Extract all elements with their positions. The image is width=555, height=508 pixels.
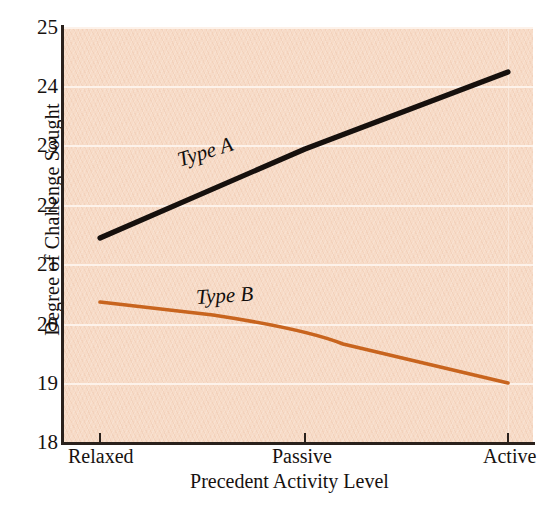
y-tick-label: 22 — [24, 195, 58, 216]
series-label-type-b: Type B — [195, 282, 254, 310]
chart-figure: Degree of Challenge Sought 25 24 23 22 2… — [0, 0, 555, 508]
y-tick-label: 18 — [24, 432, 58, 453]
series-line-type-b — [100, 302, 508, 383]
y-tick-label: 24 — [24, 76, 58, 97]
x-axis-title: Precedent Activity Level — [0, 470, 555, 493]
x-tick-label-passive: Passive — [272, 445, 332, 468]
x-tick-mark-relaxed — [99, 433, 101, 443]
y-tick-label: 25 — [24, 17, 58, 38]
y-tick-label: 20 — [24, 314, 58, 335]
plot-area — [63, 27, 533, 443]
series-line-type-a — [100, 72, 508, 238]
series-plot — [63, 27, 533, 443]
y-axis-spine — [61, 25, 64, 445]
x-tick-label-relaxed: Relaxed — [68, 445, 134, 468]
y-axis-tick-labels: 25 24 23 22 21 20 19 18 — [22, 0, 58, 508]
x-tick-label-active: Active — [483, 445, 536, 468]
x-tick-mark-passive — [304, 433, 306, 443]
y-tick-label: 23 — [24, 135, 58, 156]
x-axis-title-text: Precedent Activity Level — [190, 470, 389, 492]
y-tick-label: 19 — [24, 373, 58, 394]
y-tick-label: 21 — [24, 254, 58, 275]
x-tick-mark-active — [507, 433, 509, 443]
